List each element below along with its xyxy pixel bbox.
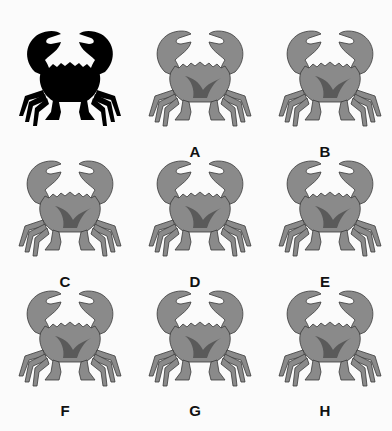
crab-icon: [145, 150, 255, 260]
option-d[interactable]: D: [130, 130, 260, 270]
option-label: F: [0, 402, 130, 419]
option-g[interactable]: G: [130, 260, 260, 400]
option-e[interactable]: E: [260, 130, 390, 270]
crab-icon: [275, 20, 385, 130]
target-crab-cell: [0, 0, 130, 140]
crab-silhouette-icon: [15, 20, 125, 130]
crab-icon: [275, 280, 385, 390]
crab-icon: [145, 20, 255, 130]
option-a[interactable]: A: [130, 0, 260, 140]
crab-icon: [145, 280, 255, 390]
option-f[interactable]: F: [0, 260, 130, 400]
crab-icon: [15, 280, 125, 390]
option-label: G: [130, 402, 260, 419]
option-label: H: [260, 402, 390, 419]
option-b[interactable]: B: [260, 0, 390, 140]
option-h[interactable]: H: [260, 260, 390, 400]
option-c[interactable]: C: [0, 130, 130, 270]
crab-icon: [15, 150, 125, 260]
crab-icon: [275, 150, 385, 260]
